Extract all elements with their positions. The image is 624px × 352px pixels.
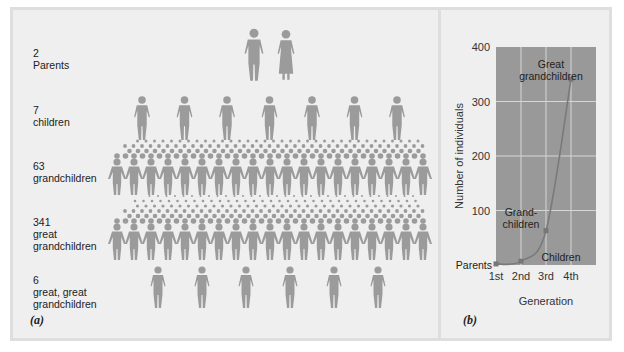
svg-text:Parents: Parents xyxy=(456,259,492,271)
panel-b-tag: (b) xyxy=(463,313,477,328)
svg-text:300: 300 xyxy=(472,96,490,108)
svg-text:200: 200 xyxy=(472,150,490,162)
svg-text:400: 400 xyxy=(472,41,490,53)
x-axis-ticks: 1st2nd3rd4th xyxy=(489,270,579,282)
svg-text:children: children xyxy=(503,218,540,230)
population-figure: 100200300400 1st2nd3rd4th Number of indi… xyxy=(0,0,624,352)
svg-text:4th: 4th xyxy=(563,270,578,282)
svg-text:Great: Great xyxy=(538,58,564,70)
y-axis-label: Number of individuals xyxy=(453,103,465,209)
svg-text:1st: 1st xyxy=(489,270,504,282)
svg-text:Grand-: Grand- xyxy=(505,206,538,218)
pedigree-figures xyxy=(108,29,432,308)
svg-text:100: 100 xyxy=(472,205,490,217)
x-axis-label: Generation xyxy=(519,295,573,307)
growth-chart: 100200300400 1st2nd3rd4th Number of indi… xyxy=(453,41,596,307)
svg-text:grandchildren: grandchildren xyxy=(519,70,583,82)
svg-text:3rd: 3rd xyxy=(538,270,554,282)
svg-text:Children: Children xyxy=(541,251,580,263)
y-axis-ticks: 100200300400 xyxy=(472,41,490,217)
svg-text:2nd: 2nd xyxy=(512,270,530,282)
